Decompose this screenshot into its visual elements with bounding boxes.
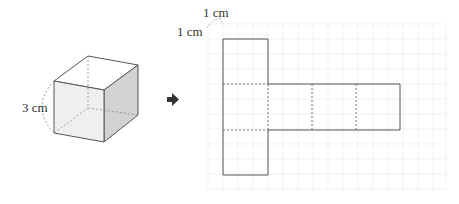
- grid-paper: [208, 24, 446, 190]
- cube-edge-label: 3 cm: [22, 100, 48, 115]
- unit-label-height: 1 cm: [177, 24, 203, 39]
- unit-label-width: 1 cm: [203, 5, 229, 20]
- cube: 3 cm: [22, 56, 138, 142]
- right-arrow-icon: [167, 93, 179, 106]
- cube-net: [223, 39, 400, 175]
- net-strip-outline: [268, 84, 400, 130]
- cube-net-diagram: 3 cm 1 cm 1 cm: [0, 0, 459, 204]
- net-column-outline: [223, 39, 268, 175]
- net-fold-lines: [223, 84, 356, 130]
- grid-unit-labels: 1 cm 1 cm: [177, 5, 229, 39]
- cube-front-face: [54, 81, 104, 142]
